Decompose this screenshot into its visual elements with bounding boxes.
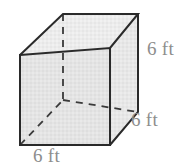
dimension-label-depth: 6 ft — [131, 110, 158, 129]
cube-figure: 6 ft 6 ft 6 ft — [0, 0, 193, 163]
dimension-label-height: 6 ft — [147, 39, 174, 58]
cube-drawing — [0, 0, 193, 163]
dimension-label-width: 6 ft — [33, 146, 60, 163]
